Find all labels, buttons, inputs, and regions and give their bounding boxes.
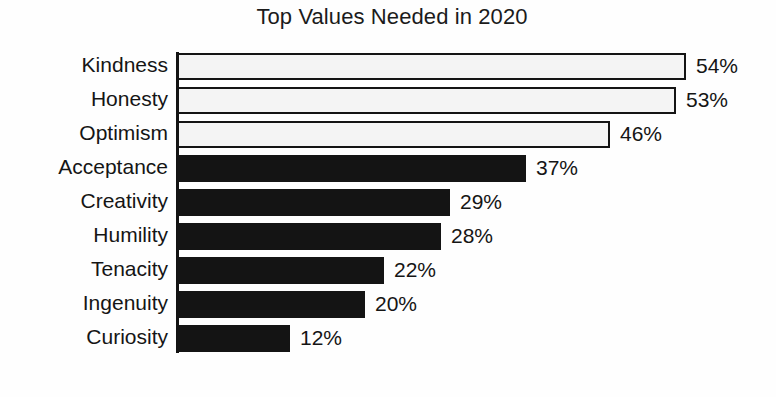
bar-row: Kindness54% (0, 51, 776, 85)
bar-value-label-tenacity: 22% (394, 256, 436, 284)
category-label-optimism: Optimism (0, 119, 168, 147)
bar-row: Acceptance37% (0, 153, 776, 187)
bar-row: Creativity29% (0, 187, 776, 221)
category-label-tenacity: Tenacity (0, 255, 168, 283)
bar-value-label-creativity: 29% (460, 188, 502, 216)
bar-row: Ingenuity20% (0, 289, 776, 323)
bar-value-label-curiosity: 12% (300, 324, 342, 352)
bar-container (177, 291, 365, 318)
bar-humility (177, 223, 441, 250)
bar-creativity (177, 189, 450, 216)
bar-acceptance (177, 155, 526, 182)
chart-page: Top Values Needed in 2020 Kindness54%Hon… (0, 0, 776, 397)
bar-value-label-acceptance: 37% (536, 154, 578, 182)
bar-value-label-ingenuity: 20% (375, 290, 417, 318)
category-label-ingenuity: Ingenuity (0, 289, 168, 317)
bar-container (177, 223, 441, 250)
bar-curiosity (177, 325, 290, 352)
page-title: Top Values Needed in 2020 (0, 4, 776, 30)
bar-row: Tenacity22% (0, 255, 776, 289)
category-label-honesty: Honesty (0, 85, 168, 113)
bar-row: Humility28% (0, 221, 776, 255)
category-label-acceptance: Acceptance (0, 153, 168, 181)
category-label-kindness: Kindness (0, 51, 168, 79)
bar-tenacity (177, 257, 384, 284)
bar-container (177, 53, 686, 80)
bar-container (177, 155, 526, 182)
bar-kindness (177, 53, 686, 80)
bar-container (177, 189, 450, 216)
bar-container (177, 325, 290, 352)
bar-row: Curiosity12% (0, 323, 776, 357)
plot-area: Kindness54%Honesty53%Optimism46%Acceptan… (0, 50, 776, 380)
bar-value-label-humility: 28% (451, 222, 493, 250)
bar-ingenuity (177, 291, 365, 318)
bar-container (177, 121, 610, 148)
bar-optimism (177, 121, 610, 148)
category-label-humility: Humility (0, 221, 168, 249)
category-label-creativity: Creativity (0, 187, 168, 215)
bar-honesty (177, 87, 676, 114)
bar-row: Optimism46% (0, 119, 776, 153)
bar-value-label-honesty: 53% (686, 86, 728, 114)
category-label-curiosity: Curiosity (0, 323, 168, 351)
bar-value-label-optimism: 46% (620, 120, 662, 148)
bar-value-label-kindness: 54% (696, 52, 738, 80)
bar-container (177, 87, 676, 114)
bar-container (177, 257, 384, 284)
bar-row: Honesty53% (0, 85, 776, 119)
